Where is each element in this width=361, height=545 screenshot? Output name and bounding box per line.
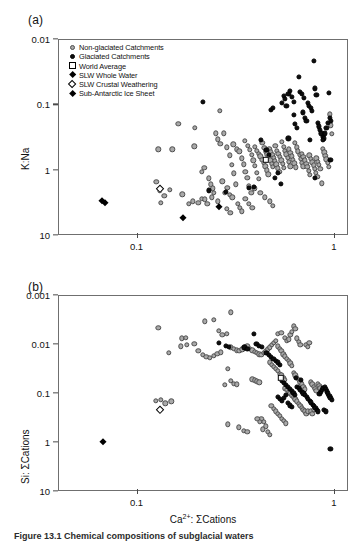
figure-caption: Figure 13.1 Chemical compositions of sub… (14, 531, 354, 544)
legend-item-0: Non-glaciated Catchments (66, 43, 164, 52)
data-point-gray-circle (70, 45, 75, 50)
legend-label: SLW Crustal Weathering (79, 81, 157, 88)
y-tick-label: 0.01 (10, 339, 50, 350)
legend-label: Non-glaciated Catchments (79, 44, 164, 51)
panel-a: (a) K:Na 1010.10.010.11Non-glaciated Cat… (0, 0, 361, 272)
shared-x-axis-title: Ca2+: ΣCations (170, 513, 236, 525)
legend-marker-black-circle-icon (66, 53, 79, 60)
data-point-filled-diamond (69, 71, 77, 79)
legend-marker-filled-diamond-icon (66, 90, 79, 97)
data-point-filled-diamond (101, 199, 109, 207)
figure-container: (a) K:Na 1010.10.010.11Non-glaciated Cat… (0, 0, 361, 545)
y-tick-label: 10 (10, 486, 50, 497)
y-tick-label: 0.1 (10, 388, 50, 399)
y-tick-label: 0.01 (10, 34, 50, 45)
y-tick-label: 1 (10, 164, 50, 175)
legend-label: Sub-Antarctic Ice Sheet (79, 90, 154, 97)
data-point-open-diamond (68, 80, 77, 89)
data-point-filled-diamond (100, 439, 108, 447)
y-tick-label: 1 (10, 437, 50, 448)
legend-label: World Average (79, 63, 126, 70)
data-point-open-square (69, 62, 75, 68)
data-point-filled-diamond (69, 90, 77, 98)
legend-label: Glaciated Catchments (79, 53, 150, 60)
legend-marker-filled-diamond-icon (66, 72, 79, 79)
legend-marker-open-diamond-icon (66, 81, 79, 89)
legend-item-4: SLW Crustal Weathering (66, 80, 164, 89)
x-tick-label: 0.1 (130, 241, 143, 252)
y-tick-label: 0.001 (10, 290, 50, 301)
legend-item-1: Glaciated Catchments (66, 52, 164, 61)
legend-marker-gray-circle-icon (66, 44, 79, 51)
legend-item-2: World Average (66, 62, 164, 71)
panel-b-plot-area: 1010.10.010.0010.11 (58, 295, 348, 491)
legend: Non-glaciated CatchmentsGlaciated Catchm… (66, 43, 164, 99)
y-tick-label: 10 (10, 230, 50, 241)
legend-label: SLW Whole Water (79, 72, 137, 79)
series-sub-antarctic-ice-sheet (58, 295, 348, 491)
x-tick-label: 1 (331, 497, 336, 508)
legend-marker-open-square-icon (66, 62, 79, 70)
panel-a-label: (a) (28, 13, 43, 27)
panel-a-plot-area: 1010.10.010.11Non-glaciated CatchmentsGl… (58, 39, 348, 235)
y-tick-label: 0.1 (10, 99, 50, 110)
legend-item-5: Sub-Antarctic Ice Sheet (66, 89, 164, 98)
legend-item-3: SLW Whole Water (66, 71, 164, 80)
data-point-filled-diamond (180, 214, 188, 222)
x-tick-label: 0.1 (130, 497, 143, 508)
data-point-black-circle (70, 54, 75, 59)
x-tick-label: 1 (331, 241, 336, 252)
panel-b: (b) Si: ΣCations 1010.10.010.0010.11 (0, 272, 361, 528)
